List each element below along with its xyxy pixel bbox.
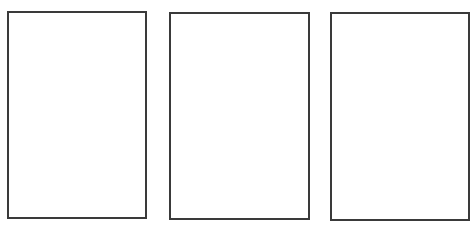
blank-panel-3 — [330, 12, 470, 221]
blank-panel-1 — [7, 11, 147, 219]
blank-panel-2 — [169, 12, 310, 220]
